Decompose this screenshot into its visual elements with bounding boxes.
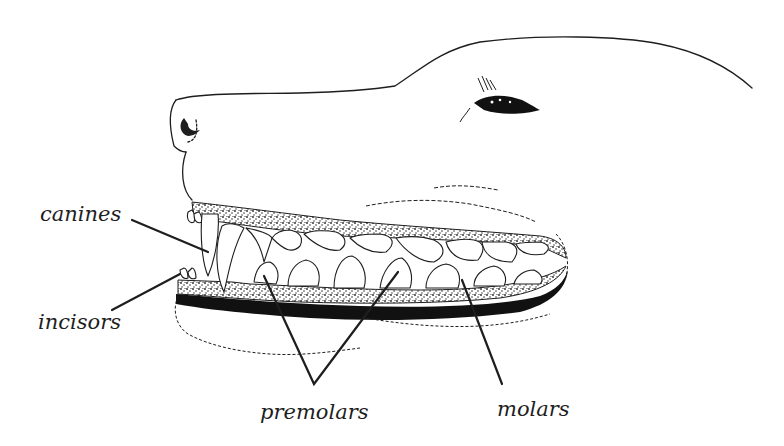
dog-teeth-diagram: canines incisors premolars molars xyxy=(0,0,784,446)
upper-canine xyxy=(201,214,218,276)
leader-canines xyxy=(132,220,208,252)
label-incisors: incisors xyxy=(38,312,121,333)
lower-gum xyxy=(178,266,566,303)
label-canines: canines xyxy=(40,204,121,225)
label-premolars: premolars xyxy=(260,402,369,423)
head-outline xyxy=(171,37,753,200)
eye-icon xyxy=(460,76,540,122)
leader-incisors xyxy=(112,274,180,310)
label-molars: molars xyxy=(497,399,570,420)
nose-icon xyxy=(181,118,200,136)
